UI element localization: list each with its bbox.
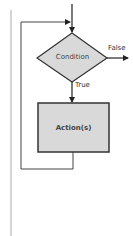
true-label: True	[75, 82, 90, 89]
condition-label: Condition	[45, 54, 100, 61]
false-label: False	[108, 45, 126, 52]
flowchart-canvas: Condition False True Action(s)	[0, 0, 133, 236]
action-label: Action(s)	[38, 125, 109, 132]
flowchart-svg	[0, 0, 133, 236]
